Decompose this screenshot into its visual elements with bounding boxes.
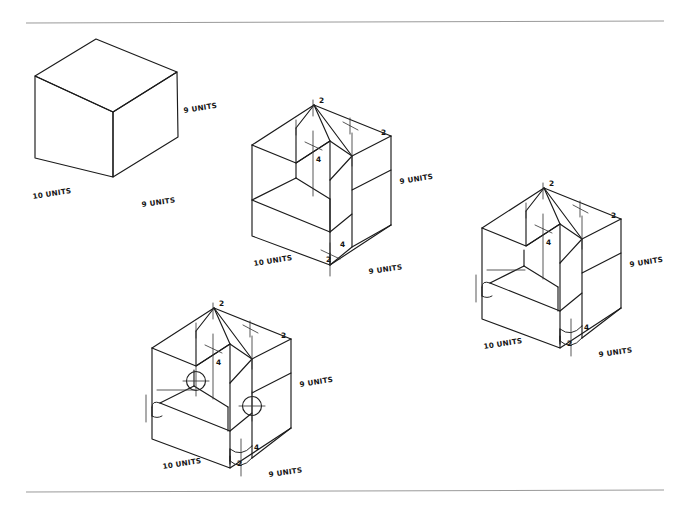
fig3-dim-step-depth: 2 — [567, 339, 572, 348]
fig2-dim-notch-depth: 4 — [316, 155, 321, 164]
fig3-dim-notch-right: 2 — [611, 211, 616, 220]
fig2-dim-notch-left: 2 — [319, 96, 324, 105]
fig3-dim-notch-left: 2 — [549, 179, 554, 188]
fig4-dim-notch-depth: 4 — [216, 358, 221, 367]
fig3-dim-step-height: 4 — [584, 323, 589, 332]
sketch-canvas: 10 UNITS 9 UNITS 9 UNITS — [0, 0, 688, 506]
fig4-dim-step-depth: 2 — [237, 459, 242, 468]
fig4-dim-notch-right: 2 — [281, 331, 286, 340]
fig2-dim-step-height: 4 — [340, 240, 345, 249]
sketch-sheet: 10 UNITS 9 UNITS 9 UNITS — [0, 0, 688, 506]
fig2-dim-notch-right: 2 — [381, 128, 386, 137]
fig4-dim-notch-left: 2 — [219, 299, 224, 308]
fig2-dim-step-depth: 2 — [326, 255, 331, 264]
fig4-dim-step-height: 4 — [254, 443, 259, 452]
fig3-dim-notch-depth: 4 — [546, 238, 551, 247]
